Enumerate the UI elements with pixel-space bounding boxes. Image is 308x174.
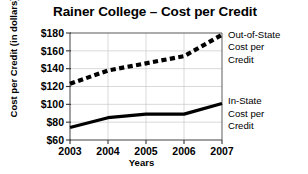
series-annotation-line: Cost per: [228, 41, 265, 52]
x-tick-label: 2005: [134, 145, 158, 157]
x-tick-label: 2007: [210, 145, 234, 157]
chart-container: Rainer College – Cost per Credit Cost pe…: [0, 0, 308, 174]
series-annotation-line: Out-of-State: [228, 29, 280, 40]
series-annotation-line: In-State: [228, 95, 262, 106]
x-tick-label: 2003: [58, 145, 82, 157]
y-tick-label: $80: [46, 116, 64, 128]
x-tick-label: 2004: [96, 145, 120, 157]
gridlines-group: [70, 33, 222, 140]
series-annotations-group: Out-of-StateCost perCreditIn-StateCost p…: [228, 29, 280, 131]
y-tick-label: $180: [41, 27, 65, 39]
y-tick-label: $160: [41, 45, 65, 57]
y-tick-label: $140: [41, 62, 65, 74]
plot-area: $60$80$100$120$140$160$180 2003200420052…: [0, 0, 308, 174]
series-annotation-line: Cost per: [228, 108, 265, 119]
y-tick-label: $100: [41, 98, 65, 110]
series-annotation-line: Credit: [228, 54, 254, 65]
series-annotation-line: Credit: [228, 120, 254, 131]
x-tick-label: 2006: [172, 145, 196, 157]
y-tick-label: $120: [41, 80, 65, 92]
x-tick-labels-group: 20032004200520062007: [58, 145, 234, 157]
y-tick-labels-group: $60$80$100$120$140$160$180: [41, 27, 65, 146]
